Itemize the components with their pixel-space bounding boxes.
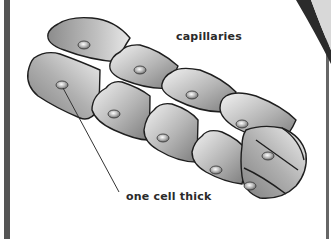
label-one-cell-thick: one cell thick xyxy=(126,190,212,203)
cell xyxy=(92,82,150,140)
capillary-illustration xyxy=(0,0,331,239)
cell xyxy=(144,104,198,162)
label-capillaries: capillaries xyxy=(176,30,242,43)
capillary-tube xyxy=(28,18,307,199)
left-border xyxy=(4,0,10,239)
cell xyxy=(192,131,246,184)
